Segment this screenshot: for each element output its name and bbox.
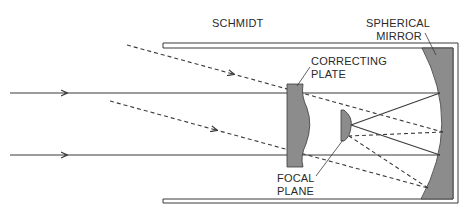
diagram-title: SCHMIDT bbox=[212, 17, 264, 30]
spherical-mirror-label: SPHERICAL MIRROR bbox=[366, 17, 422, 43]
focal-label-line1: FOCAL bbox=[277, 172, 315, 185]
mirror-label-line2: MIRROR bbox=[366, 30, 422, 43]
focal-plane-label: FOCAL PLANE bbox=[277, 172, 315, 198]
upper-oblique-ray-in bbox=[127, 45, 233, 74]
plate-label-line1: CORRECTING bbox=[311, 55, 387, 68]
axial-rays bbox=[10, 93, 440, 155]
focal-label-line2: PLANE bbox=[277, 185, 315, 198]
lower-oblique-ray-in bbox=[110, 101, 216, 130]
focal-leader bbox=[316, 140, 343, 176]
spherical-mirror bbox=[421, 48, 453, 199]
mirror-label-line1: SPHERICAL bbox=[366, 17, 422, 30]
plate-label-line2: PLATE bbox=[311, 68, 387, 81]
oblique-rays bbox=[110, 45, 443, 188]
plate-leader bbox=[297, 67, 310, 86]
correcting-plate-label: CORRECTING PLATE bbox=[311, 55, 387, 81]
